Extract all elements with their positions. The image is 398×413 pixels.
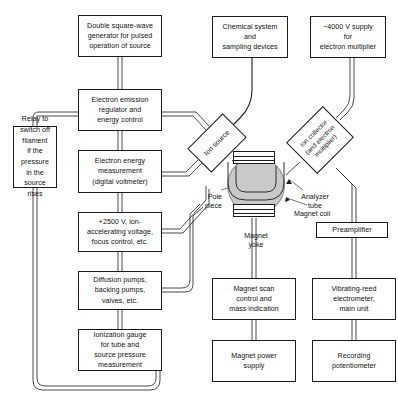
box-label: Electron emission regulator and energy c…: [92, 95, 149, 125]
callout-label: Pole piece: [205, 193, 222, 211]
box-preamplifier[interactable]: Preamplifier: [316, 222, 388, 238]
box-electron-multiplier-supply[interactable]: −4000 V supply for electron multiplier: [310, 16, 386, 58]
box-recording-potentiometer[interactable]: Recording potentiometer: [312, 340, 396, 382]
box-label: −4000 V supply for electron multiplier: [320, 22, 377, 52]
block-diagram: Double square-wave generator for pulsed …: [0, 0, 398, 413]
box-diffusion-pumps[interactable]: Diffusion pumps, backing pumps, valves, …: [78, 271, 162, 310]
box-label: Diffusion pumps, backing pumps, valves, …: [93, 275, 147, 305]
box-label: Magnet scan control and mass indication: [229, 284, 279, 314]
callout-label: Magnet yoke: [244, 232, 268, 250]
callout-pole-piece: Pole piece: [188, 183, 222, 212]
box-magnet-scan-control[interactable]: Magnet scan control and mass indication: [212, 278, 296, 320]
callout-magnet-coil: Magnet coil: [294, 200, 356, 219]
box-label: +2500 V, ion- accelerating voltage, focu…: [87, 217, 153, 247]
box-label: Relay to switch off filament if the pres…: [20, 114, 50, 199]
box-label: Electron energy measurement (digital vol…: [92, 156, 147, 186]
box-label: Preamplifier: [332, 225, 372, 235]
box-double-square-wave-generator[interactable]: Double square-wave generator for pulsed …: [78, 15, 162, 57]
box-vibrating-reed-electrometer[interactable]: Vibrating-reed electrometer, main unit: [312, 278, 396, 320]
box-label: Ionization gauge for tube and source pre…: [94, 330, 147, 370]
component-label: Ion source: [202, 128, 232, 158]
box-label: Double square-wave generator for pulsed …: [87, 21, 153, 51]
callout-label: Magnet coil: [294, 210, 330, 218]
box-electron-energy-measurement[interactable]: Electron energy measurement (digital vol…: [78, 150, 162, 193]
callout-magnet-yoke: Magnet yoke: [228, 222, 284, 251]
box-chemical-system[interactable]: Chemical system and sampling devices: [212, 16, 288, 58]
box-label: Vibrating-reed electrometer, main unit: [331, 284, 376, 314]
box-electron-emission-regulator[interactable]: Electron emission regulator and energy c…: [78, 89, 162, 131]
box-ion-accelerating-voltage[interactable]: +2500 V, ion- accelerating voltage, focu…: [78, 212, 162, 252]
box-magnet-power-supply[interactable]: Magnet power supply: [212, 340, 296, 382]
box-relay-switch-off-filament[interactable]: Relay to switch off filament if the pres…: [13, 126, 57, 188]
box-ionization-gauge[interactable]: Ionization gauge for tube and source pre…: [78, 329, 162, 371]
box-label: Magnet power supply: [231, 351, 277, 371]
box-label: Chemical system and sampling devices: [222, 22, 277, 52]
box-label: Recording potentiometer: [332, 351, 376, 371]
